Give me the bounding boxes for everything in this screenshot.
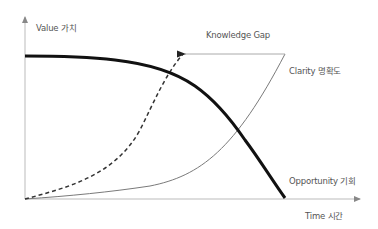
knowledge-gap-label: Knowledge Gap: [206, 30, 270, 40]
x-axis-label: Time 시간: [305, 209, 343, 221]
opportunity-label: Opportunity 기회: [289, 174, 356, 186]
knowledge-dashed-curve: [25, 54, 183, 199]
clarity-label: Clarity 명확도: [289, 64, 341, 76]
knowledge-gap-diagram: Value 가치 Knowledge Gap Clarity 명확도 Oppor…: [0, 0, 378, 229]
y-axis-label: Value 가치: [36, 21, 76, 33]
opportunity-curve: [25, 56, 285, 198]
diagram-canvas: [0, 0, 378, 229]
clarity-curve: [25, 54, 285, 199]
